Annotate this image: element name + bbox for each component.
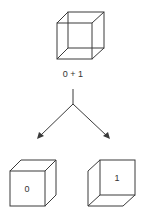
left-cube-label: 0 [24,184,29,194]
split-arrows [37,89,110,139]
necker-cube-diagram: 0 + 1 0 1 [0,0,144,217]
right-cube [88,160,135,206]
top-cube-label: 0 + 1 [63,69,83,79]
left-cube [10,160,56,206]
right-cube-label: 1 [114,173,119,183]
top-necker-cube [57,12,104,59]
